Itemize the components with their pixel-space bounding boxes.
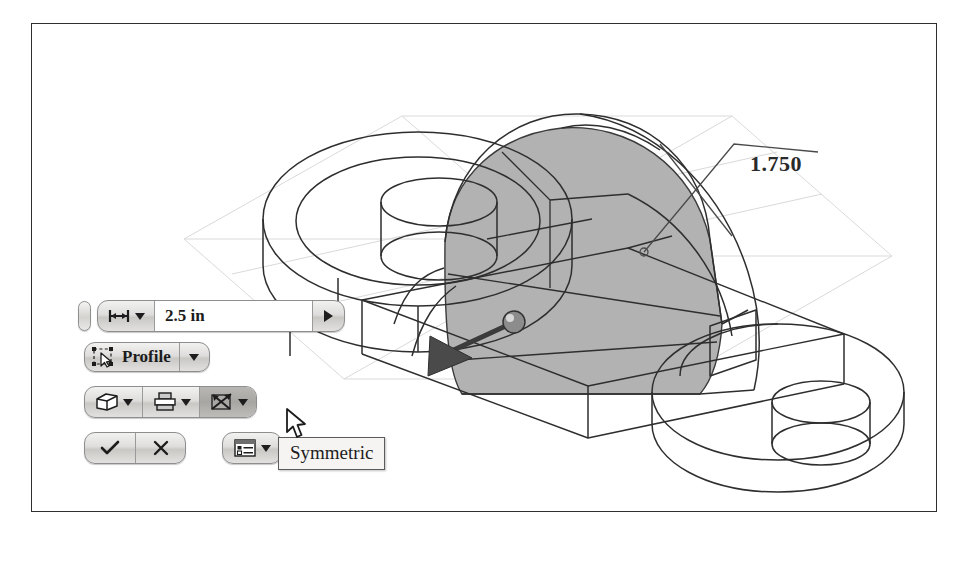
distance-stepper-button[interactable]: [312, 301, 344, 331]
solid-output-button[interactable]: [85, 387, 142, 417]
distance-input[interactable]: 2.5 in: [165, 306, 205, 326]
chevron-down-icon: [123, 399, 133, 406]
chevron-down-icon: [181, 399, 191, 406]
dimension-value-label[interactable]: 1.750: [750, 151, 802, 177]
toolbar-drag-handle[interactable]: [78, 301, 91, 331]
more-options-list-icon: [233, 438, 257, 458]
confirm-button-group: [84, 432, 186, 464]
symmetric-direction-icon: [209, 391, 235, 413]
profile-select-group: Profile: [84, 342, 210, 372]
toolbar-row-profile: Profile: [84, 342, 210, 372]
close-x-icon: [151, 439, 171, 457]
select-profile-icon: [91, 346, 117, 368]
chevron-down-icon: [135, 313, 145, 320]
profile-label: Profile: [122, 347, 171, 367]
boolean-join-icon: [152, 391, 178, 413]
checkmark-icon: [99, 439, 121, 457]
application-window-frame: 1.750 2.5 in: [31, 23, 937, 512]
ok-button[interactable]: [85, 433, 135, 463]
solid-cube-icon: [94, 391, 120, 413]
mouse-pointer-icon: [284, 408, 308, 440]
distance-input-wrapper[interactable]: 2.5 in: [154, 301, 312, 331]
toolbar-row-options: [222, 432, 282, 464]
extent-type-button[interactable]: [98, 301, 154, 331]
more-options-button[interactable]: [223, 433, 281, 463]
profile-dropdown-button[interactable]: [179, 343, 209, 371]
toolbar-row-value: 2.5 in: [78, 300, 345, 332]
chevron-down-icon: [238, 399, 248, 406]
distance-value-group: 2.5 in: [97, 300, 345, 332]
extrude-mini-toolbar[interactable]: 2.5 in Profi: [62, 272, 412, 487]
chevron-down-icon: [189, 354, 199, 361]
toolbar-row-confirm: [84, 432, 186, 464]
toolbar-row-operations: [84, 386, 257, 418]
extent-distance-icon: [107, 308, 131, 324]
chevron-down-icon: [261, 445, 271, 452]
direction-symmetric-button[interactable]: [199, 387, 256, 417]
cancel-button[interactable]: [135, 433, 185, 463]
boolean-operation-button[interactable]: [142, 387, 199, 417]
select-profile-button[interactable]: Profile: [85, 343, 179, 371]
operation-button-group: [84, 386, 257, 418]
tooltip: Symmetric: [278, 437, 385, 470]
chevron-right-icon: [324, 310, 333, 322]
more-options-group: [222, 432, 282, 464]
